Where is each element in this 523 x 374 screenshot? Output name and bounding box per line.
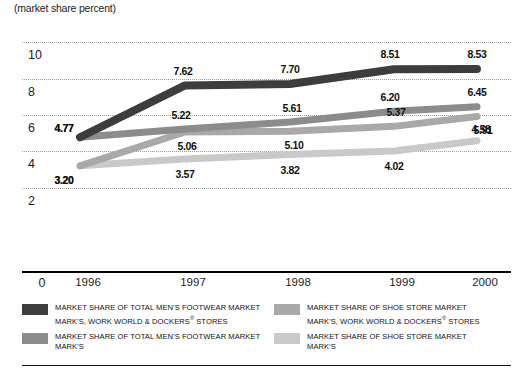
x-axis-line — [22, 271, 511, 273]
data-label-s1-1996: 4.77 — [54, 122, 73, 134]
legend-item-2[interactable]: MARKET SHARE OF SHOE STORE MARKETMARK'S,… — [274, 303, 519, 327]
x-tick-label-2000: 2000 — [472, 276, 498, 288]
data-label-s0-1997: 7.62 — [173, 65, 192, 77]
data-label-s3-2000: 4.58 — [471, 123, 490, 135]
legend-swatch-1 — [22, 333, 48, 344]
legend-item-3[interactable]: MARKET SHARE OF SHOE STORE MARKETMARK'S — [274, 332, 519, 352]
x-tick-label-1999: 1999 — [389, 276, 415, 288]
legend-label-line1-3: MARKET SHARE OF SHOE STORE MARKET — [307, 332, 467, 341]
legend-label-3: MARKET SHARE OF SHOE STORE MARKETMARK'S — [307, 332, 467, 352]
legend-label-0: MARKET SHARE OF TOTAL MEN'S FOOTWEAR MAR… — [55, 303, 260, 327]
data-label-s0-1998: 7.70 — [280, 63, 299, 75]
registered-mark-0: ® — [190, 315, 194, 321]
legend-label-1: MARKET SHARE OF TOTAL MEN'S FOOTWEAR MAR… — [55, 332, 260, 352]
x-tick-label-1998: 1998 — [285, 276, 311, 288]
x-tick-label-1996: 1996 — [75, 276, 101, 288]
legend-label-line2-0: MARK'S, WORK WORLD & DOCKERS® STORES — [55, 313, 260, 327]
series-lines — [22, 24, 511, 224]
plot-area: 108642 4.777.627.708.518.534.775.225.616… — [22, 24, 511, 224]
registered-mark-2: ® — [442, 315, 446, 321]
legend-item-1[interactable]: MARKET SHARE OF TOTAL MEN'S FOOTWEAR MAR… — [22, 332, 267, 352]
data-label-s0-1999: 8.51 — [380, 48, 399, 60]
legend-swatch-2 — [274, 304, 300, 315]
legend-label-line1-1: MARKET SHARE OF TOTAL MEN'S FOOTWEAR MAR… — [55, 332, 260, 341]
x-tick-label-1997: 1997 — [180, 276, 206, 288]
legend-label-line2-3: MARK'S — [307, 342, 467, 352]
legend-swatch-3 — [274, 333, 300, 344]
legend-label-line2-1: MARK'S — [55, 342, 260, 352]
data-label-s2-1997: 5.06 — [177, 140, 196, 152]
data-label-s3-1998: 3.82 — [280, 164, 299, 176]
data-label-s1-2000: 6.45 — [467, 86, 486, 98]
legend-column-left: MARKET SHARE OF TOTAL MEN'S FOOTWEAR MAR… — [22, 303, 267, 357]
legend-label-2: MARKET SHARE OF SHOE STORE MARKETMARK'S,… — [307, 303, 480, 327]
y-axis-title: (market share percent) — [14, 2, 116, 14]
data-label-s2-1999: 5.37 — [386, 106, 405, 118]
legend-label-line2-2: MARK'S, WORK WORLD & DOCKERS® STORES — [307, 313, 480, 327]
data-label-s0-2000: 8.53 — [467, 48, 486, 60]
data-label-s3-1999: 4.02 — [384, 160, 403, 172]
data-label-s3-1997: 3.57 — [175, 168, 194, 180]
data-label-s2-1998: 5.10 — [284, 139, 303, 151]
legend-column-right: MARKET SHARE OF SHOE STORE MARKETMARK'S,… — [274, 303, 519, 357]
legend-swatch-0 — [22, 304, 48, 315]
chart-legend: MARKET SHARE OF TOTAL MEN'S FOOTWEAR MAR… — [22, 303, 511, 366]
data-label-s1-1998: 5.61 — [282, 102, 301, 114]
legend-label-line1-2: MARKET SHARE OF SHOE STORE MARKET — [307, 303, 467, 312]
x-axis-origin-label: 0 — [39, 276, 46, 290]
legend-item-0[interactable]: MARKET SHARE OF TOTAL MEN'S FOOTWEAR MAR… — [22, 303, 267, 327]
data-label-s1-1997: 5.22 — [171, 109, 190, 121]
legend-label-line1-0: MARKET SHARE OF TOTAL MEN'S FOOTWEAR MAR… — [55, 303, 260, 312]
chart-container: (market share percent) 108642 4.777.627.… — [0, 0, 523, 374]
data-label-s3-1996: 3.20 — [54, 174, 73, 186]
data-label-s1-1999: 6.20 — [380, 91, 399, 103]
